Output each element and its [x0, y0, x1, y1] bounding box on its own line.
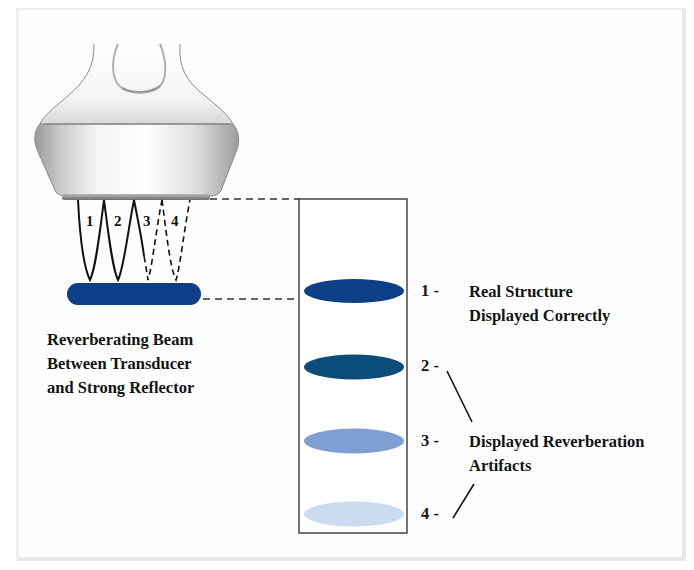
label-real-structure: Real Structure Displayed Correctly	[469, 280, 610, 328]
caption-line: Between Transducer	[47, 352, 194, 376]
caption-reverberating-beam: Reverberating Beam Between Transducer an…	[47, 328, 194, 400]
beam-label-2: 2	[114, 213, 122, 230]
beam-label-4: 4	[171, 213, 179, 230]
echo-1-real	[304, 279, 404, 303]
connector-line-2	[447, 371, 472, 422]
reverberating-beam-dashed	[144, 200, 190, 280]
strong-reflector	[67, 283, 201, 305]
caption-line: Reverberating Beam	[47, 328, 194, 352]
echo-number-2: 2 -	[421, 355, 439, 377]
echo-3-artifact	[304, 429, 404, 454]
label-line: Displayed Correctly	[469, 304, 610, 328]
echo-number-3: 3 -	[421, 430, 439, 452]
label-line: Displayed Reverberation	[469, 430, 645, 454]
echo-2-artifact	[304, 355, 404, 380]
echo-4-artifact	[304, 502, 404, 527]
label-reverberation-artifacts: Displayed Reverberation Artifacts	[469, 430, 645, 478]
transducer-icon	[35, 44, 239, 200]
label-line: Real Structure	[469, 280, 610, 304]
reverberating-beam	[78, 200, 144, 280]
beam-label-3: 3	[143, 213, 151, 230]
beam-label-1: 1	[86, 213, 94, 230]
echo-number-4: 4 -	[421, 503, 439, 525]
echo-number-1: 1 -	[421, 280, 439, 302]
label-line: Artifacts	[469, 454, 645, 478]
connector-line-4	[453, 484, 474, 518]
caption-line: and Strong Reflector	[47, 376, 194, 400]
